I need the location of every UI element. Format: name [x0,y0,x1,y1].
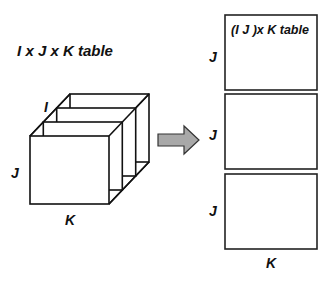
block-3-j-label: J [209,203,218,219]
arrow-right-icon [158,126,199,154]
block-2-j-label: J [209,127,218,143]
right-k-label: K [266,255,277,271]
left-title: I x J x K table [17,42,113,59]
axis-j-label: J [11,165,20,181]
right-title: (I J )x K table [231,23,309,37]
matrix-block-3 [225,174,317,249]
axis-k-label: K [65,212,76,228]
unfolded-matrix [225,15,317,249]
axis-i-label: I [44,99,49,115]
unfolding-diagram: I x J x K table I J K (I J )x K table J … [0,0,330,281]
matrix-block-2 [225,94,317,169]
slice-front [30,136,109,204]
block-1-j-label: J [209,49,218,65]
